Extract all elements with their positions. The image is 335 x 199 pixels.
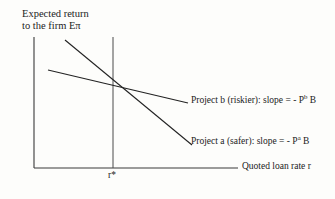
annotation-project-b: Project b (riskier): slope = - Pb B <box>191 95 316 106</box>
annotation-project-b-prefix: Project b (riskier): slope = - P <box>191 95 304 105</box>
r-star-tick-label: r* <box>108 170 116 181</box>
project-b-line <box>48 70 188 103</box>
annotation-project-a: Project a (safer): slope = - Pa B <box>191 136 309 147</box>
annotation-project-a-suffix: B <box>301 136 310 146</box>
y-axis-label-line-2: to the firm Eπ <box>22 20 89 32</box>
project-a-line <box>65 40 192 145</box>
x-axis-label: Quoted loan rate r <box>242 161 311 172</box>
annotation-project-a-prefix: Project a (safer): slope = - P <box>191 136 298 146</box>
y-axis-label-line-1: Expected return <box>22 8 89 19</box>
annotation-project-b-suffix: B <box>307 95 316 105</box>
expected-return-diagram: Expected return to the firm Eπ Project b… <box>0 0 335 199</box>
y-axis-label: Expected return to the firm Eπ <box>22 8 89 32</box>
